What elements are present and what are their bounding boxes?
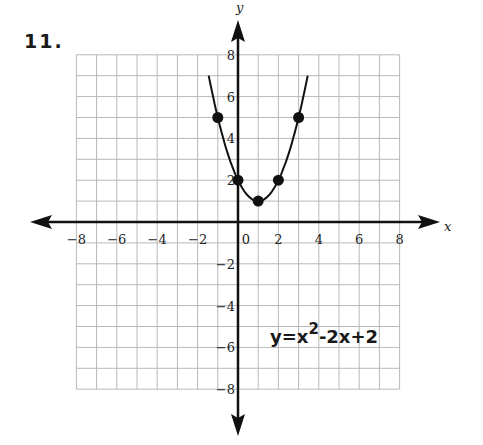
svg-text:8: 8 bbox=[395, 232, 403, 247]
coordinate-plane: −8−6−4−2024688642−2−4−6−8 x y bbox=[0, 0, 483, 445]
equation-label: y=x2-2x+2 bbox=[270, 322, 378, 347]
data-point bbox=[293, 112, 304, 123]
data-point bbox=[253, 196, 264, 207]
svg-text:4: 4 bbox=[315, 232, 323, 247]
svg-text:−2: −2 bbox=[188, 232, 207, 247]
equation-rest: -2x+2 bbox=[319, 326, 378, 347]
svg-text:−6: −6 bbox=[216, 340, 235, 355]
svg-text:0: 0 bbox=[242, 232, 250, 247]
svg-text:4: 4 bbox=[227, 131, 235, 146]
svg-text:2: 2 bbox=[274, 232, 282, 247]
x-axis-label: x bbox=[444, 219, 452, 234]
svg-text:−6: −6 bbox=[107, 232, 126, 247]
svg-text:−8: −8 bbox=[67, 232, 86, 247]
equation-exponent: 2 bbox=[308, 320, 318, 338]
svg-text:−4: −4 bbox=[216, 299, 235, 314]
y-axis-label: y bbox=[235, 0, 244, 15]
svg-text:6: 6 bbox=[227, 90, 235, 105]
svg-text:−8: −8 bbox=[216, 382, 235, 397]
svg-text:6: 6 bbox=[355, 232, 363, 247]
svg-text:−4: −4 bbox=[148, 232, 167, 247]
axes bbox=[30, 20, 440, 436]
data-point bbox=[233, 175, 244, 186]
data-point bbox=[273, 175, 284, 186]
equation-lhs: y=x bbox=[270, 326, 308, 347]
svg-text:−2: −2 bbox=[216, 257, 235, 272]
svg-text:8: 8 bbox=[227, 48, 235, 63]
data-point bbox=[212, 112, 223, 123]
